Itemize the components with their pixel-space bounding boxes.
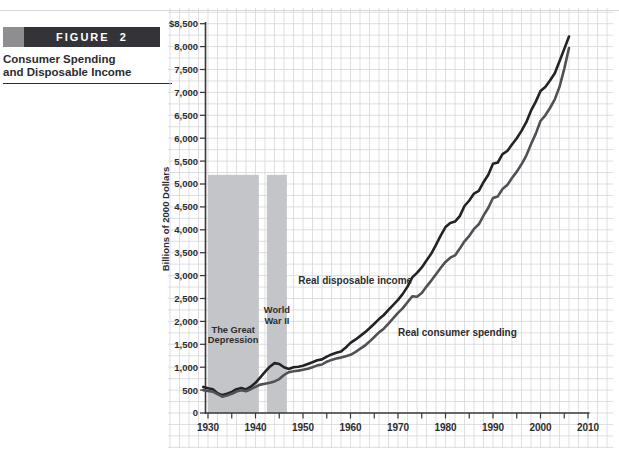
figure-page: FIGURE 2 Consumer Spending and Disposabl…	[0, 0, 619, 465]
x-tick-label: 1990	[482, 422, 505, 433]
y-tick-label: 1,000	[174, 362, 198, 373]
y-tick-label: 4,000	[174, 224, 198, 235]
x-tick-label: 1960	[339, 422, 362, 433]
recession-band-world-war-2: WorldWar II	[264, 175, 290, 413]
y-tick-label: 5,000	[174, 178, 198, 189]
x-tick-label: 2000	[529, 422, 552, 433]
y-tick-label: 4,500	[174, 201, 198, 212]
y-tick-label: 5,500	[174, 156, 198, 167]
real-disposable-income-label: Real disposable income	[298, 275, 412, 286]
recession-band-great-depression-area	[208, 175, 259, 413]
y-tick-label: 6,500	[174, 110, 198, 121]
y-tick-label: $8,500	[169, 18, 198, 29]
x-tick-group: 193019401950196019701980199020002010	[197, 413, 600, 433]
y-tick-label: 2,500	[174, 293, 198, 304]
x-tick-label: 1930	[197, 422, 220, 433]
y-tick-label: 0	[193, 407, 198, 418]
recession-band-world-war-2-label: War II	[264, 316, 289, 326]
y-tick-label: 3,500	[174, 247, 198, 258]
y-tick-label: 7,000	[174, 87, 198, 98]
y-tick-label: 8,000	[174, 41, 198, 52]
recession-band-great-depression-label: The Great	[211, 325, 254, 335]
recession-band-world-war-2-label: World	[264, 305, 290, 315]
y-tick-label: 6,000	[174, 133, 198, 144]
x-tick-label: 1950	[292, 422, 315, 433]
real-consumer-spending-label: Real consumer spending	[398, 327, 517, 338]
y-axis-title: Billions of 2000 Dollars	[160, 167, 171, 272]
y-tick-label: 500	[182, 385, 198, 396]
x-tick-label: 1980	[434, 422, 457, 433]
y-tick-label: 2,000	[174, 316, 198, 327]
consumer-spending-and-disposable-income-chart: The GreatDepressionWorldWar II$8,5008,00…	[0, 0, 619, 465]
recession-band-great-depression-label: Depression	[208, 335, 259, 345]
x-tick-label: 2010	[577, 422, 600, 433]
recession-band-world-war-2-area	[267, 175, 287, 413]
recession-band-great-depression: The GreatDepression	[208, 175, 259, 413]
x-tick-label: 1970	[387, 422, 410, 433]
x-tick-label: 1940	[244, 422, 267, 433]
y-tick-label: 1,500	[174, 339, 198, 350]
y-tick-label: 3,000	[174, 270, 198, 281]
y-tick-label: 7,500	[174, 64, 198, 75]
